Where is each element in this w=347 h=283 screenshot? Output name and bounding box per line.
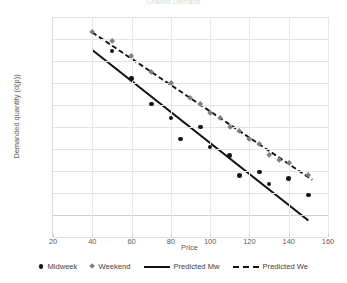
diamond-marker-icon xyxy=(90,264,96,270)
legend-item[interactable]: Predicted Mw xyxy=(144,262,220,271)
y-axis-label: Demanded quantity (d(p)) xyxy=(12,57,21,177)
x-gridline xyxy=(289,17,290,237)
x-gridline xyxy=(210,17,211,237)
y-gridline xyxy=(53,17,328,18)
data-point-midweek xyxy=(198,125,203,130)
legend-label: Midweek xyxy=(47,262,77,271)
plot-area: -200020040060080010001200140016001800204… xyxy=(52,17,327,237)
x-tick-label: 140 xyxy=(269,237,309,246)
legend-label: Predicted We xyxy=(263,262,308,271)
y-gridline xyxy=(53,193,328,194)
trend-line xyxy=(92,50,308,221)
x-gridline xyxy=(328,17,329,237)
y-gridline xyxy=(53,171,328,172)
x-gridline xyxy=(249,17,250,237)
circle-marker-icon xyxy=(39,264,43,268)
dashed-line-icon xyxy=(233,266,259,268)
legend-label: Weekend xyxy=(99,262,131,271)
solid-line-icon xyxy=(144,266,170,268)
data-point-midweek xyxy=(257,170,262,175)
x-tick-label: 60 xyxy=(112,237,152,246)
x-tick-label: 20 xyxy=(33,237,73,246)
x-gridline xyxy=(171,17,172,237)
y-gridline xyxy=(53,105,328,106)
y-gridline xyxy=(53,83,328,84)
chart-legend: MidweekWeekendPredicted MwPredicted We xyxy=(0,262,347,271)
legend-label: Predicted Mw xyxy=(174,262,220,271)
legend-item[interactable]: Predicted We xyxy=(233,262,308,271)
x-gridline xyxy=(92,17,93,237)
x-tick-label: 160 xyxy=(308,237,347,246)
chart-title: Graded Demand xyxy=(0,0,347,7)
y-gridline xyxy=(53,215,328,216)
legend-item[interactable]: Weekend xyxy=(90,262,130,271)
data-point-midweek xyxy=(286,176,291,181)
y-gridline xyxy=(53,149,328,150)
data-point-midweek xyxy=(129,76,134,81)
data-point-midweek xyxy=(227,153,232,158)
y-gridline xyxy=(53,127,328,128)
y-gridline xyxy=(53,61,328,62)
y-gridline xyxy=(53,39,328,40)
data-point-midweek xyxy=(149,102,154,107)
x-tick-label: 120 xyxy=(229,237,269,246)
x-gridline xyxy=(132,17,133,237)
legend-item[interactable]: Midweek xyxy=(39,262,77,271)
chart-container: Graded Demand Demanded quantity (d(p)) P… xyxy=(0,0,347,283)
x-tick-label: 40 xyxy=(72,237,112,246)
data-point-midweek xyxy=(237,173,242,178)
x-tick-label: 80 xyxy=(151,237,191,246)
x-tick-label: 100 xyxy=(190,237,230,246)
